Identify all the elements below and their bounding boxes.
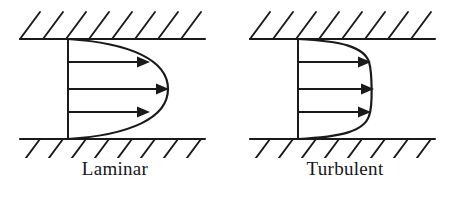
panel-turbulent: Turbulent bbox=[230, 0, 460, 199]
velocity-arrow-3 bbox=[68, 107, 150, 118]
velocity-arrow-1 bbox=[298, 57, 371, 68]
laminar-diagram bbox=[0, 0, 230, 158]
velocity-arrows bbox=[298, 57, 374, 118]
caption-laminar: Laminar bbox=[0, 158, 230, 180]
velocity-arrow-2 bbox=[68, 84, 169, 95]
velocity-arrow-3 bbox=[298, 107, 371, 118]
caption-turbulent: Turbulent bbox=[230, 158, 460, 180]
top-wall-hatching bbox=[20, 12, 201, 39]
velocity-arrow-2 bbox=[298, 84, 374, 95]
bottom-wall-hatching bbox=[20, 139, 201, 158]
velocity-arrows bbox=[68, 57, 169, 118]
panel-laminar: Laminar bbox=[0, 0, 230, 199]
bottom-wall-hatching bbox=[250, 139, 431, 158]
top-wall-hatching bbox=[250, 12, 431, 39]
velocity-arrow-1 bbox=[68, 57, 150, 68]
velocity-profile-figure: Laminar bbox=[0, 0, 461, 199]
turbulent-diagram bbox=[230, 0, 460, 158]
